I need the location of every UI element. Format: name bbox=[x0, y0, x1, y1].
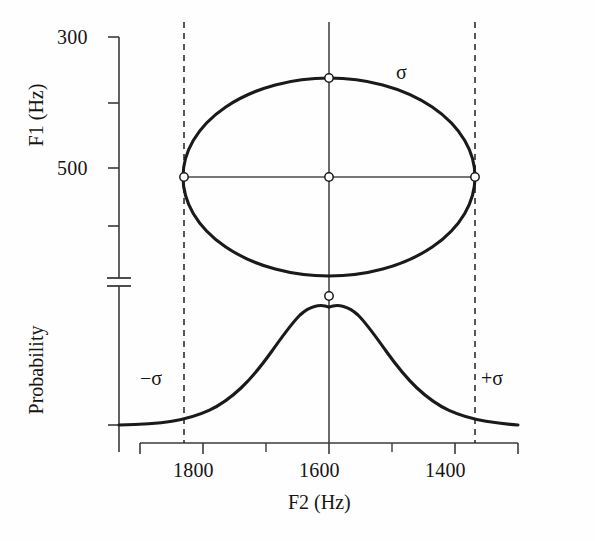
marker-ellipse-top bbox=[325, 74, 333, 82]
x-tick-label-1600: 1600 bbox=[299, 460, 340, 480]
marker-ellipse-center bbox=[325, 173, 333, 181]
axis-break-marker bbox=[107, 278, 131, 286]
x-axis-title: F2 (Hz) bbox=[288, 492, 351, 512]
marker-ellipse-bottom bbox=[325, 292, 333, 300]
sigma-label: σ bbox=[396, 62, 407, 82]
marker-ellipse-right bbox=[471, 173, 479, 181]
x-tick-label-1800: 1800 bbox=[173, 460, 214, 480]
minus-sigma-label: −σ bbox=[140, 368, 162, 388]
probability-density-curve bbox=[119, 306, 518, 425]
plus-sigma-label: +σ bbox=[481, 368, 503, 388]
y-tick-label-500: 500 bbox=[57, 158, 88, 178]
y-axis-title-f1: F1 (Hz) bbox=[22, 60, 50, 170]
marker-ellipse-left bbox=[180, 173, 188, 181]
chart-canvas bbox=[0, 0, 595, 541]
x-tick-label-1400: 1400 bbox=[425, 460, 466, 480]
y-axis-lower bbox=[108, 286, 119, 452]
x-axis bbox=[140, 443, 518, 454]
y-tick-label-300: 300 bbox=[57, 27, 88, 47]
y-axis-title-f1-text: F1 (Hz) bbox=[26, 84, 46, 147]
y-axis-title-probability: Probability bbox=[22, 300, 50, 440]
y-axis-upper bbox=[108, 37, 119, 278]
formant-dispersion-figure: 300 500 F1 (Hz) Probability 1800 1600 14… bbox=[0, 0, 595, 541]
y-axis-title-probability-text: Probability bbox=[26, 326, 46, 415]
